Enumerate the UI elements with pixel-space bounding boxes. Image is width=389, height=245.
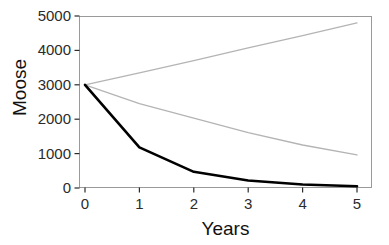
y-axis-tick-marks: [75, 16, 80, 188]
x-axis-tick-marks: [85, 188, 357, 193]
x-tick-label: 5: [337, 196, 377, 211]
x-tick-label: 0: [65, 196, 105, 211]
x-tick-label: 1: [119, 196, 159, 211]
y-tick-label: 4000: [38, 42, 71, 57]
y-tick-label: 2000: [38, 111, 71, 126]
panel-border: [80, 17, 372, 188]
chart-figure: 010002000300040005000 012345 Moose Years: [0, 0, 389, 245]
y-tick-label: 0: [63, 180, 71, 195]
x-tick-label: 4: [283, 196, 323, 211]
y-tick-label: 1000: [38, 146, 71, 161]
y-axis-title: Moose: [10, 43, 29, 133]
x-tick-label: 3: [228, 196, 268, 211]
x-tick-label: 2: [174, 196, 214, 211]
y-tick-label: 3000: [38, 77, 71, 92]
y-tick-label: 5000: [38, 8, 71, 23]
x-axis-title: Years: [79, 219, 372, 238]
